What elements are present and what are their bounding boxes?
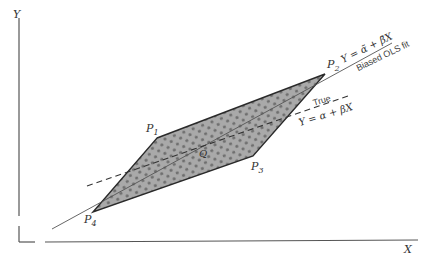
true-line-caption: True — [312, 93, 332, 108]
y-axis-label: Y — [13, 8, 22, 21]
q-label: Q — [199, 148, 207, 159]
ols-bias-diagram: Y X P1 P2 P3 P4 Q Y = α̃ + β̃X Biased OL… — [0, 0, 423, 259]
biased-ols-line — [52, 43, 392, 229]
x-axis — [19, 240, 418, 242]
p3-label: P3 — [250, 160, 264, 175]
p2-label: P2 — [326, 58, 340, 73]
p1-label: P1 — [145, 122, 159, 137]
true-line-equation: Y = α + βX — [297, 101, 354, 128]
p4-label: P4 — [83, 213, 97, 228]
x-axis-label: X — [403, 243, 413, 256]
